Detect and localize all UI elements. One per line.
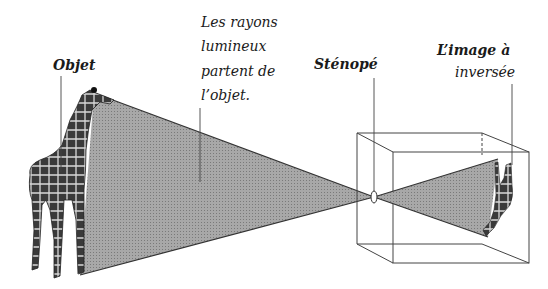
light-cone-outside — [80, 93, 374, 275]
label-image-line1: L’image à — [437, 41, 510, 59]
label-rayons-line1: Les rayons — [201, 13, 278, 31]
label-objet: Objet — [53, 56, 95, 74]
label-image-line2: inversée — [455, 63, 515, 81]
label-rayons-line3: partent de — [201, 62, 275, 80]
label-rayons-line4: l’objet. — [201, 86, 250, 104]
label-rayons-line2: lumineux — [201, 37, 266, 55]
pinhole-icon — [371, 191, 377, 203]
label-stenope: Sténopé — [314, 55, 378, 73]
